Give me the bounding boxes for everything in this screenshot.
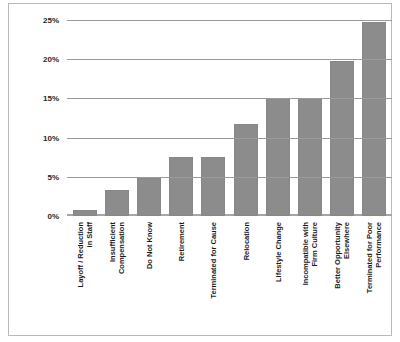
- y-axis-tick-label: 15%: [43, 94, 59, 103]
- bar-series: [67, 20, 392, 216]
- x-axis-tick-label: Terminated for Cause: [209, 222, 218, 299]
- x-label-slot: Lifestyle Change: [262, 220, 294, 338]
- bar-slot: [165, 20, 197, 216]
- x-label-slot: InsufficientCompensation: [101, 220, 133, 338]
- gridline: [67, 138, 392, 139]
- bar[interactable]: [201, 157, 225, 216]
- bar[interactable]: [266, 98, 290, 216]
- x-axis-tick-label: Layoff / Reductionin Staff: [76, 222, 94, 287]
- bar-slot: [133, 20, 165, 216]
- x-axis-tick-label-line: Terminated for Cause: [209, 222, 218, 299]
- x-axis-tick-label-line: Layoff / Reduction: [76, 222, 85, 287]
- bar[interactable]: [169, 157, 193, 216]
- x-label-slot: Relocation: [229, 220, 261, 338]
- x-label-slot: Do Not Know: [133, 220, 165, 338]
- gridline: [67, 20, 392, 21]
- chart-frame: 0%5%10%15%20%25% Layoff / Reductionin St…: [8, 3, 392, 336]
- x-axis-tick-label-line: Retirement: [177, 222, 186, 261]
- x-axis-tick-label-line: Compensation: [117, 222, 126, 274]
- y-axis-tick-label: 10%: [43, 133, 59, 142]
- x-axis-tick-label: InsufficientCompensation: [108, 222, 126, 274]
- y-axis-tick-label: 20%: [43, 55, 59, 64]
- x-label-slot: Terminated for Cause: [197, 220, 229, 338]
- gridline: [67, 177, 392, 178]
- x-axis-tick-label-line: Insufficient: [108, 222, 117, 274]
- x-axis-tick-label-line: Lifestyle Change: [273, 222, 282, 282]
- bar[interactable]: [137, 178, 161, 216]
- bar-slot: [358, 20, 390, 216]
- y-axis-tick-label: 0%: [47, 212, 59, 221]
- x-label-slot: Retirement: [165, 220, 197, 338]
- x-axis-tick-label-line: Terminated for Poor: [365, 222, 374, 293]
- x-axis-tick-label: Do Not Know: [145, 222, 154, 269]
- x-axis-labels: Layoff / Reductionin StaffInsufficientCo…: [67, 220, 392, 338]
- x-axis-tick-label: Better OpportunityElsewhere: [333, 222, 351, 289]
- x-axis-tick-label-line: Elsewhere: [342, 222, 351, 289]
- y-axis: 0%5%10%15%20%25%: [23, 20, 59, 216]
- x-label-slot: Better OpportunityElsewhere: [326, 220, 358, 338]
- gridline: [67, 98, 392, 99]
- x-axis-tick-label-line: Incompatible with: [301, 222, 310, 285]
- x-axis-tick-label: Relocation: [241, 222, 250, 260]
- bar[interactable]: [73, 210, 97, 216]
- bar[interactable]: [362, 22, 386, 216]
- bar-slot: [294, 20, 326, 216]
- x-axis-tick-label-line: in Staff: [85, 222, 94, 287]
- x-axis-tick-label-line: Firm Culture: [310, 222, 319, 285]
- y-axis-tick-label: 5%: [47, 172, 59, 181]
- x-axis-tick-label-line: Better Opportunity: [333, 222, 342, 289]
- x-axis-tick-label: Terminated for PoorPerformance: [365, 222, 383, 293]
- x-axis-tick-label: Incompatible withFirm Culture: [301, 222, 319, 285]
- plot-area: [67, 20, 392, 216]
- bar-slot: [262, 20, 294, 216]
- x-label-slot: Incompatible withFirm Culture: [294, 220, 326, 338]
- bar-slot: [326, 20, 358, 216]
- x-axis-tick-label-line: Performance: [374, 222, 383, 293]
- x-axis-tick-label-line: Do Not Know: [145, 222, 154, 269]
- chart-container: 0%5%10%15%20%25% Layoff / Reductionin St…: [9, 4, 391, 335]
- bar-slot: [229, 20, 261, 216]
- x-label-slot: Terminated for PoorPerformance: [358, 220, 390, 338]
- bar-slot: [101, 20, 133, 216]
- bar-slot: [197, 20, 229, 216]
- bar[interactable]: [105, 190, 129, 216]
- x-axis-tick-label: Retirement: [177, 222, 186, 261]
- y-axis-tick-label: 25%: [43, 16, 59, 25]
- bar-slot: [69, 20, 101, 216]
- x-axis-tick-label: Lifestyle Change: [273, 222, 282, 282]
- x-label-slot: Layoff / Reductionin Staff: [69, 220, 101, 338]
- gridline: [67, 59, 392, 60]
- x-axis-tick-label-line: Relocation: [241, 222, 250, 260]
- bar[interactable]: [298, 98, 322, 216]
